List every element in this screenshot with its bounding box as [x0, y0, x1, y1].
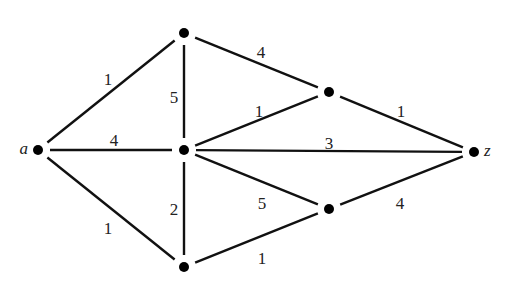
edge-weight-label: 3	[325, 134, 334, 153]
edge-weight-label: 4	[110, 131, 119, 150]
node-u	[324, 87, 334, 97]
node-l	[324, 204, 334, 214]
edge-weight-label: 1	[255, 102, 264, 121]
node-label-a: a	[20, 139, 29, 158]
edge-weight-label: 5	[170, 88, 179, 107]
edge-weight-label: 1	[104, 70, 113, 89]
graph-canvas: 141541325141 az	[0, 0, 507, 281]
node-t	[179, 28, 189, 38]
edge-weight-label: 1	[104, 219, 113, 238]
node-label-z: z	[483, 141, 491, 160]
node-c	[179, 145, 189, 155]
edge-weight-label: 1	[258, 249, 267, 268]
edge-a-b	[47, 158, 174, 260]
weight-labels-layer: 141541325141	[104, 43, 406, 268]
edge-c-l	[195, 155, 318, 205]
edge-weight-label: 2	[170, 200, 179, 219]
edge-weight-label: 4	[396, 194, 405, 213]
edge-b-l	[195, 213, 318, 262]
node-a	[33, 145, 43, 155]
edge-weight-label: 4	[257, 43, 266, 62]
edge-weight-label: 1	[397, 102, 406, 121]
edge-weight-label: 5	[258, 194, 267, 213]
node-z	[469, 147, 479, 157]
edge-a-t	[47, 41, 174, 143]
node-b	[179, 262, 189, 272]
